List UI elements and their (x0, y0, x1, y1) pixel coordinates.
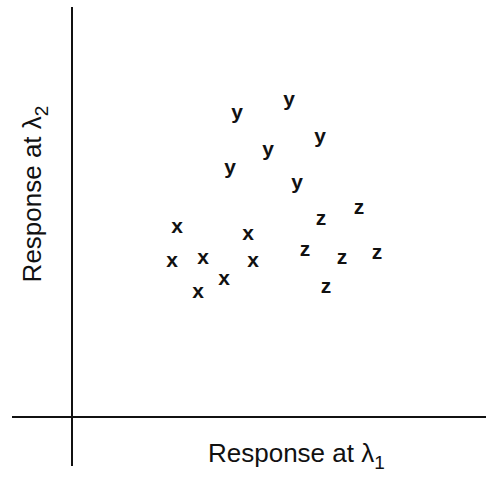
data-point-x: x (242, 222, 254, 243)
data-point-z: z (321, 275, 332, 296)
data-point-x: x (192, 280, 204, 301)
data-point-x: x (197, 246, 209, 267)
data-point-z: z (337, 246, 348, 267)
data-point-y: y (291, 171, 303, 192)
data-point-z: z (300, 238, 311, 259)
data-point-z: z (354, 196, 365, 217)
data-point-x: x (171, 215, 183, 236)
data-point-y: y (262, 138, 274, 159)
data-point-y: y (231, 101, 243, 122)
data-point-z: z (316, 207, 327, 228)
data-point-z: z (372, 241, 383, 262)
data-point-y: y (314, 125, 326, 146)
data-point-y: y (224, 156, 236, 177)
data-point-y: y (283, 88, 295, 109)
data-point-x: x (218, 267, 230, 288)
data-point-x: x (166, 249, 178, 270)
data-points: xxxxxxxyyyyyyzzzzzz (0, 0, 490, 496)
data-point-x: x (247, 249, 259, 270)
